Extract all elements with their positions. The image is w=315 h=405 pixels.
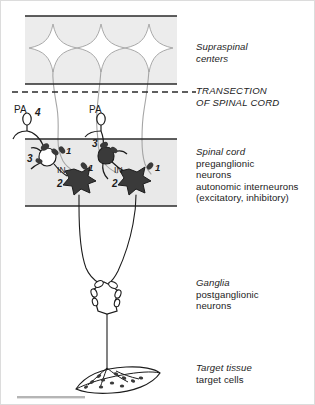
label-spinal-cord-line-3: neurons (196, 169, 298, 181)
label-transection-of-spinal-cord: TRANSECTION OF SPINAL CORD (196, 85, 279, 108)
varicosity-10 (110, 382, 114, 385)
label-marker-3-left: 3 (27, 153, 33, 165)
label-interneuron-right: IN (114, 165, 123, 177)
label-pa-left: PA (14, 104, 27, 116)
label-interneuron-left: IN (57, 165, 66, 177)
label-marker-1-c: 1 (155, 162, 160, 174)
label-transection-line-2: OF SPINAL CORD (196, 97, 279, 109)
label-target-tissue-line-1: Target tissue (196, 362, 252, 374)
label-supraspinal-centers-line-2: centers (196, 53, 248, 65)
label-ganglia-line-2: postganglionic (196, 289, 259, 301)
label-target-tissue: Target tissue target cells (196, 362, 252, 385)
label-ganglia-line-3: neurons (196, 300, 259, 312)
label-pa-right: PA (89, 104, 102, 116)
varicosity-11 (120, 385, 124, 388)
label-spinal-cord-line-4: autonomic interneurons (196, 181, 298, 193)
varicosity-4 (101, 379, 105, 382)
label-marker-2-left: 2 (57, 178, 63, 190)
supraspinal-neuron-group (29, 24, 173, 72)
label-ganglia: Ganglia postganglionic neurons (196, 277, 259, 312)
varicosity-5 (99, 386, 103, 389)
label-supraspinal-centers: Supraspinal centers (196, 41, 248, 64)
label-transection-line-1: TRANSECTION (196, 85, 279, 97)
label-spinal-cord-line-2: preganglionic (196, 158, 298, 170)
label-marker-1-b: 1 (88, 162, 93, 174)
label-marker-3-right: 3 (92, 138, 98, 150)
label-marker-4: 4 (35, 107, 41, 119)
label-target-tissue-line-2: target cells (196, 374, 252, 386)
label-spinal-cord-line-1: Spinal cord (196, 146, 298, 158)
label-spinal-cord: Spinal cord preganglionic neurons autono… (196, 146, 298, 204)
figure-canvas: Supraspinal centers TRANSECTION OF SPINA… (0, 0, 315, 405)
label-spinal-cord-line-5: (excitatory, inhibitory) (196, 192, 298, 204)
footer-bar (17, 396, 85, 398)
label-ganglia-line-1: Ganglia (196, 277, 259, 289)
label-marker-2-right: 2 (112, 178, 118, 190)
label-supraspinal-centers-line-1: Supraspinal (196, 41, 248, 53)
label-marker-1-a: 1 (66, 145, 71, 157)
